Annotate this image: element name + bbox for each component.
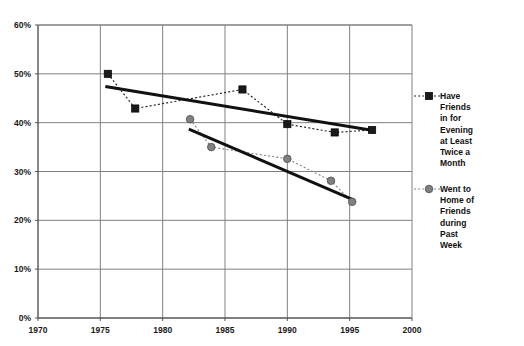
y-tick-label: 0% (19, 313, 32, 323)
legend-entry-1[interactable]: HaveFriendsin forEveningat LeastTwice aM… (414, 91, 473, 168)
x-axis-tick-labels: 1970197519801985199019952000 (29, 318, 422, 335)
y-tick-label: 10% (14, 264, 31, 274)
legend-label-line: Evening (440, 125, 473, 135)
data-point-square (132, 105, 139, 112)
line-chart: 0%10%20%30%40%50%60% 1970197519801985199… (0, 0, 524, 346)
legend-label-line: Week (440, 240, 462, 250)
x-tick-label: 2000 (403, 325, 422, 335)
x-tick-label: 1980 (153, 325, 172, 335)
chart-legend: HaveFriendsin forEveningat LeastTwice aM… (414, 91, 474, 250)
legend-label-line: Went to (440, 184, 471, 194)
y-tick-label: 20% (14, 215, 31, 225)
data-point-circle (207, 143, 215, 151)
legend-label-line: Past (440, 229, 458, 239)
chart-series-layer (104, 70, 375, 205)
x-tick-label: 1975 (91, 325, 110, 335)
data-point-square (239, 86, 246, 93)
x-tick-label: 1970 (29, 325, 48, 335)
data-point-square (284, 121, 291, 128)
series-have-friends-in (104, 70, 375, 136)
x-tick-label: 1990 (278, 325, 297, 335)
legend-entry-2[interactable]: Went toHome ofFriendsduringPastWeek (414, 184, 474, 250)
legend-marker-square (425, 92, 432, 99)
legend-marker-circle (425, 185, 433, 193)
y-tick-label: 50% (14, 69, 31, 79)
data-point-square (331, 129, 338, 136)
legend-label-line: Friends (440, 206, 471, 216)
data-point-circle (186, 115, 194, 123)
y-tick-label: 40% (14, 118, 31, 128)
legend-label-line: Twice a (440, 147, 470, 157)
legend-label-line: Friends (440, 102, 471, 112)
legend-label-line: Have (440, 91, 461, 101)
data-point-circle (327, 177, 335, 185)
legend-label-line: at Least (440, 136, 472, 146)
legend-label-line: in for (440, 113, 462, 123)
chart-gridlines (38, 25, 412, 318)
y-tick-label: 60% (14, 20, 31, 30)
y-axis-tick-labels: 0%10%20%30%40%50%60% (14, 20, 38, 323)
x-tick-label: 1985 (216, 325, 235, 335)
legend-label-line: during (440, 218, 466, 228)
legend-label-line: Month (440, 158, 466, 168)
data-point-circle (284, 155, 292, 163)
data-point-square (104, 70, 111, 77)
data-point-circle (348, 198, 356, 206)
legend-label-line: Home of (440, 195, 474, 205)
chart-container: 0%10%20%30%40%50%60% 1970197519801985199… (0, 0, 524, 346)
series-trend-line (189, 129, 354, 200)
x-tick-label: 1995 (340, 325, 359, 335)
y-tick-label: 30% (14, 167, 31, 177)
series-went-to-friends-home (186, 115, 356, 205)
data-point-square (369, 126, 376, 133)
